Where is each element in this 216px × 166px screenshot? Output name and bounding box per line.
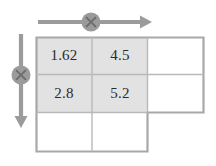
vertical-arrow-head <box>15 116 28 128</box>
horizontal-arrow-head <box>140 16 152 29</box>
horizontal-arrow-marker <box>82 13 101 32</box>
vertical-arrow-marker <box>12 66 31 85</box>
figure-canvas: 1.62 4.5 2.8 5.2 <box>0 0 216 166</box>
arrow-annotations <box>0 0 216 166</box>
